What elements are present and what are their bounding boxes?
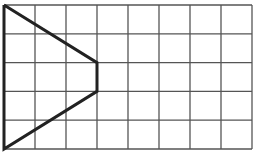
grid-diagram xyxy=(0,0,258,154)
traced-figure xyxy=(4,5,97,149)
